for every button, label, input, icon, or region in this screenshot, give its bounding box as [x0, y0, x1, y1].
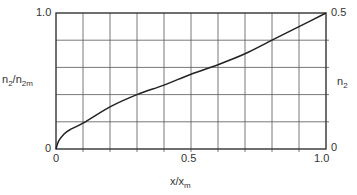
ylabel-sub2: 2m: [22, 79, 33, 88]
chart-plot-area: [0, 0, 357, 195]
x-tick-1-0: 1.0: [314, 153, 329, 164]
y-left-tick-top: 1.0: [36, 7, 51, 18]
xlabel-x: x/x: [170, 175, 184, 187]
y-right-tick-bottom: 0: [331, 142, 337, 153]
y-axis-label-right: n2: [337, 76, 348, 88]
ylabel-right-sub: 2: [343, 81, 347, 90]
ylabel-sub: 2: [8, 79, 12, 88]
ylabel-slash: /n: [13, 73, 22, 85]
x-axis-label: x/xm: [170, 176, 191, 188]
grid-lines: [56, 13, 329, 152]
xlabel-sub: m: [184, 181, 191, 190]
x-tick-0: 0: [53, 153, 59, 164]
x-tick-0-5: 0.5: [181, 153, 196, 164]
y-left-tick-bottom: 0: [45, 143, 51, 154]
y-right-tick-top: 0.5: [331, 7, 346, 18]
y-axis-label-left: n2/n2m: [2, 74, 33, 86]
